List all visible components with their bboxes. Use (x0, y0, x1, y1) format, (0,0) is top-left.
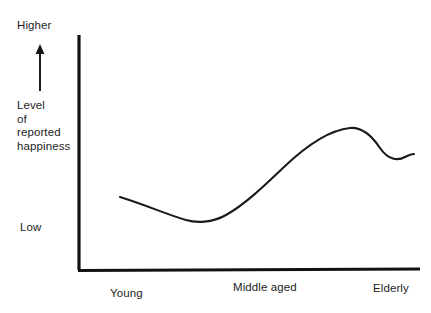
y-axis-title-line-4: happiness (17, 140, 81, 154)
chart-canvas (0, 0, 431, 313)
happiness-curve-chart: Higher Level of reported happiness Low Y… (0, 0, 431, 313)
x-axis-label-young: Young (110, 287, 143, 301)
y-axis-low-label: Low (20, 221, 41, 235)
x-axis-line (78, 269, 420, 271)
y-axis-title-line-3: reported (17, 126, 81, 140)
happiness-curve (120, 128, 414, 222)
x-axis-label-elderly: Elderly (373, 282, 409, 296)
y-axis-title-line-2: of (17, 113, 81, 127)
x-axis-label-middle-aged: Middle aged (233, 281, 297, 295)
y-axis-high-label: Higher (17, 19, 51, 33)
y-direction-arrow-icon (36, 44, 45, 91)
y-axis-title-line-1: Level (17, 99, 81, 113)
y-axis-title: Level of reported happiness (17, 99, 81, 153)
